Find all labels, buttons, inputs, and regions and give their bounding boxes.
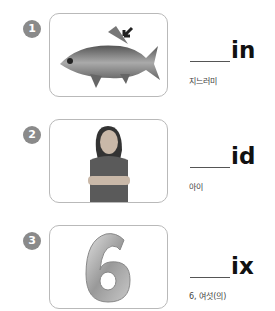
number-badge: 1 [23, 20, 41, 38]
image-card-fish [49, 13, 168, 97]
number-six-balloon-icon [50, 226, 167, 308]
word-meaning: 지느러미 [189, 75, 217, 86]
word-suffix: in [231, 38, 255, 62]
number-badge: 2 [23, 126, 41, 144]
word-suffix: id [231, 144, 255, 168]
answer-blank[interactable] [190, 277, 230, 278]
image-card-girl [49, 119, 168, 203]
answer-blank[interactable] [190, 167, 230, 168]
word-meaning: 아이 [189, 181, 203, 192]
exercise-item-3: 3 ix 6, 여섯(의) [0, 225, 275, 311]
girl-icon [50, 120, 167, 202]
number-badge: 3 [23, 232, 41, 250]
answer-blank[interactable] [190, 61, 230, 62]
exercise-item-2: 2 id 아이 [0, 119, 275, 219]
image-card-six-balloon [49, 225, 168, 309]
exercise-item-1: 1 in 지느러미 [0, 13, 275, 113]
word-meaning: 6, 여섯(의) [189, 290, 226, 301]
word-suffix: ix [231, 254, 254, 278]
fish-icon [50, 14, 167, 96]
